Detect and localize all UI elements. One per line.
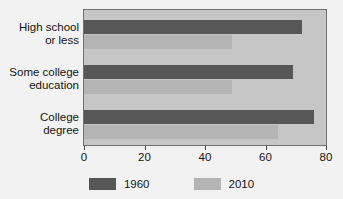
plot-area (83, 9, 327, 146)
bars-layer (84, 10, 326, 145)
x-axis-tick-label: 60 (259, 151, 272, 164)
x-axis-tick-label: 40 (199, 151, 212, 164)
bar-1960-college-degree (84, 110, 314, 124)
x-axis-tick-label: 80 (320, 151, 333, 164)
x-axis-tick-mark (326, 146, 327, 150)
bar-2010-high-school (84, 35, 232, 49)
y-axis-label-line: or less (0, 34, 79, 47)
bar-1960-high-school (84, 20, 302, 34)
x-axis-tick-label: 20 (138, 151, 151, 164)
y-axis-label-line: High school (0, 21, 79, 34)
chart-legend: 1960 2010 (0, 173, 343, 195)
y-axis-label-high-school: High school or less (0, 21, 79, 46)
legend-swatch-1960 (89, 178, 116, 190)
x-axis-tick-mark (205, 146, 206, 150)
y-axis-label-line: College (0, 111, 79, 124)
legend-label-1960: 1960 (124, 178, 150, 191)
y-axis-label-college-degree: College degree (0, 111, 79, 136)
y-axis-label-line: Some college (0, 66, 79, 79)
bar-2010-college-degree (84, 125, 278, 139)
y-axis-label-some-college: Some college education (0, 66, 79, 91)
x-axis-tick-label: 0 (81, 151, 87, 164)
bar-2010-some-college (84, 80, 232, 94)
x-axis-tick-mark (145, 146, 146, 150)
bar-group-high-school (84, 20, 326, 50)
legend-entry-2010: 2010 (194, 178, 255, 191)
bar-group-college-degree (84, 110, 326, 140)
x-axis-tick-mark (84, 146, 85, 150)
y-axis-category-labels: High school or less Some college educati… (0, 9, 79, 146)
bar-chart-figure: High school or less Some college educati… (0, 0, 343, 199)
x-axis: 020406080 (83, 146, 327, 168)
bar-1960-some-college (84, 65, 293, 79)
y-axis-label-line: education (0, 79, 79, 92)
legend-label-2010: 2010 (229, 178, 255, 191)
y-axis-label-line: degree (0, 124, 79, 137)
legend-swatch-2010 (194, 178, 221, 190)
legend-entry-1960: 1960 (89, 178, 150, 191)
bar-group-some-college (84, 65, 326, 95)
x-axis-tick-mark (266, 146, 267, 150)
